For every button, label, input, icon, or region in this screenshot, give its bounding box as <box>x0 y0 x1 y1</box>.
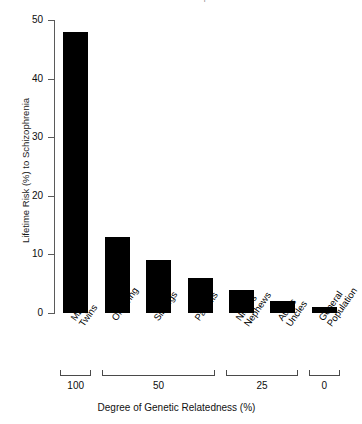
y-tick-label-10: 10 <box>3 249 43 259</box>
chart-title: Overall Risk of Schizophrenia <box>0 0 353 2</box>
bracket-label-0: 0 <box>279 381 362 391</box>
plot-area <box>55 20 345 313</box>
y-tick-0 <box>48 313 54 314</box>
y-tick-40 <box>48 79 54 80</box>
bracket-25 <box>226 370 298 376</box>
y-tick-label-40: 40 <box>3 74 43 84</box>
bracket-0 <box>309 370 340 376</box>
y-tick-10 <box>48 254 54 255</box>
x-label-line2: Twins <box>76 303 98 328</box>
y-tick-50 <box>48 20 54 21</box>
y-tick-20 <box>48 196 54 197</box>
y-tick-label-0: 0 <box>3 308 43 318</box>
y-tick-label-50: 50 <box>3 15 43 25</box>
y-tick-label-30: 30 <box>3 132 43 142</box>
x-axis-title: Degree of Genetic Relatedness (%) <box>0 402 353 413</box>
bracket-100 <box>60 370 91 376</box>
y-tick-30 <box>48 137 54 138</box>
bar-mz-twins <box>63 32 88 313</box>
y-tick-label-20: 20 <box>3 191 43 201</box>
bracket-50 <box>102 370 216 376</box>
